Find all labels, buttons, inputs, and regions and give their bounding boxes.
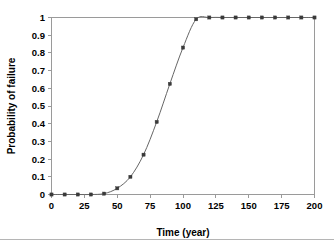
data-series-probability-of-failure [50,16,316,196]
data-point-marker [50,193,53,196]
x-axis-tick-labels: 0255075100125150175200 [49,200,323,211]
data-point-marker [63,193,66,196]
data-point-marker [103,192,106,195]
y-axis-ticks [48,18,52,195]
data-point-marker [313,16,316,19]
footer-divider [0,239,334,240]
y-tick-label: 0.7 [32,65,45,76]
data-point-marker [208,16,211,19]
x-tick-label: 175 [274,200,291,211]
data-point-marker [89,193,92,196]
x-tick-label: 50 [112,200,123,211]
data-point-marker [116,187,119,190]
x-axis-title: Time (year) [156,227,209,238]
data-point-marker [195,18,198,21]
data-point-markers [50,16,316,196]
x-tick-label: 200 [307,200,323,211]
y-tick-label: 0.3 [32,136,45,147]
x-tick-label: 25 [79,200,90,211]
data-point-marker [234,16,237,19]
y-tick-label: 0.1 [32,171,46,182]
data-point-marker [247,16,250,19]
data-point-marker [181,46,184,49]
data-point-marker [76,193,79,196]
data-point-marker [155,120,158,123]
y-axis-tick-labels: 00.10.20.30.40.50.60.70.80.91 [32,12,46,200]
y-tick-label: 0 [40,189,45,200]
x-tick-label: 100 [175,200,191,211]
y-tick-label: 0.9 [32,30,45,41]
data-point-marker [142,153,145,156]
y-tick-label: 1 [40,12,46,23]
data-point-marker [168,82,171,85]
chart-figure: 00.10.20.30.40.50.60.70.80.91 0255075100… [0,0,334,245]
y-tick-label: 0.4 [32,118,46,129]
data-point-marker [287,16,290,19]
y-tick-label: 0.2 [32,154,45,165]
x-tick-label: 150 [241,200,257,211]
plot-frame [52,18,315,195]
data-point-marker [300,16,303,19]
data-point-marker [260,16,263,19]
probability-of-failure-line-chart: 00.10.20.30.40.50.60.70.80.91 0255075100… [0,0,334,245]
x-tick-label: 75 [145,200,156,211]
data-point-marker [129,175,132,178]
data-point-marker [221,16,224,19]
data-point-marker [273,16,276,19]
y-tick-label: 0.6 [32,83,45,94]
y-tick-label: 0.5 [32,100,46,111]
x-tick-label: 0 [49,200,54,211]
x-tick-label: 125 [208,200,225,211]
y-axis-title: Probability of failure [6,57,17,154]
y-tick-label: 0.8 [32,47,45,58]
